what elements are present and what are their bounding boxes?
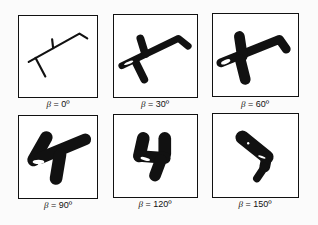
tilted-blob bbox=[213, 114, 298, 197]
label-beta-30: β = 30º bbox=[105, 99, 205, 109]
stick-figure-thin bbox=[19, 16, 97, 97]
stick-figure-thick bbox=[114, 15, 197, 97]
panel-beta-30 bbox=[113, 14, 198, 98]
stick-figure-thicker bbox=[213, 14, 298, 96]
panel-beta-60 bbox=[212, 13, 299, 97]
panel-beta-150 bbox=[212, 113, 299, 198]
compact-blob bbox=[114, 115, 197, 197]
label-beta-0: β = 0º bbox=[8, 99, 108, 109]
panel-beta-120 bbox=[113, 114, 198, 198]
label-beta-90: β = 90º bbox=[8, 200, 108, 210]
label-beta-60: β = 60º bbox=[205, 99, 305, 109]
panel-beta-0 bbox=[18, 15, 98, 98]
blob-figure bbox=[19, 116, 97, 198]
panel-beta-90 bbox=[18, 115, 98, 199]
label-beta-120: β = 120º bbox=[105, 199, 205, 209]
label-beta-150: β = 150º bbox=[205, 199, 305, 209]
